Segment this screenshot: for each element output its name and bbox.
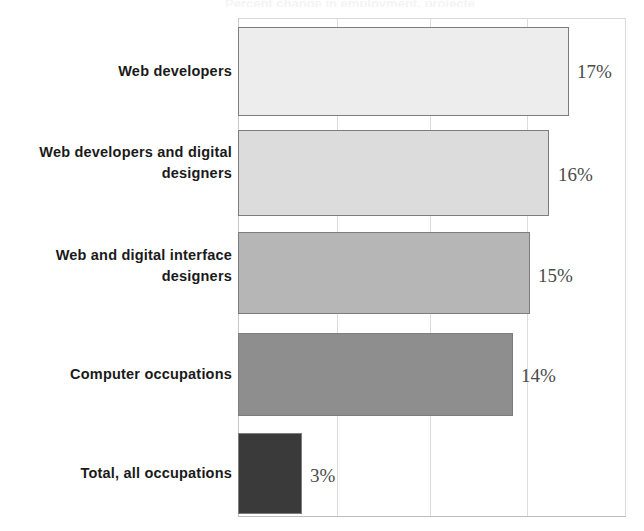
value-label-web-and-digital-interface-designers: 15% (538, 266, 573, 285)
bar-computer-occupations (238, 333, 513, 416)
x-axis-line (238, 516, 626, 517)
value-label-total-all-occupations: 3% (310, 466, 335, 485)
category-label-web-and-digital-interface-designers: Web and digital interface designers (0, 245, 232, 287)
bar-web-developers (238, 27, 569, 116)
bar-web-developers-and-digital-designers (238, 130, 549, 216)
category-label-web-developers: Web developers (0, 61, 232, 82)
plot-top-border (238, 18, 626, 19)
category-label-computer-occupations: Computer occupations (0, 364, 232, 385)
bar-chart: Percent change in employment, projected … (0, 0, 644, 531)
category-label-web-developers-and-digital-designers: Web developers and digital designers (0, 142, 232, 184)
category-label-total-all-occupations: Total, all occupations (0, 463, 232, 484)
value-label-computer-occupations: 14% (521, 366, 556, 385)
value-label-web-developers: 17% (577, 62, 612, 81)
chart-title-cropped: Percent change in employment, projected (225, 0, 475, 7)
bar-total-all-occupations (238, 433, 302, 514)
bar-web-and-digital-interface-designers (238, 232, 530, 314)
value-label-web-developers-and-digital-designers: 16% (558, 165, 593, 184)
gridline-4 (625, 18, 626, 517)
